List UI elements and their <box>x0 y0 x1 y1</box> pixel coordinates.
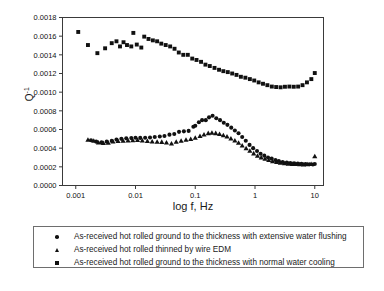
data-point-circle <box>251 146 255 150</box>
data-point-square <box>86 43 90 47</box>
y-axis-label-exponent: -1 <box>23 87 30 93</box>
data-point-square <box>274 85 278 89</box>
y-tick-label: 0.0000 <box>34 181 57 190</box>
data-point-square <box>131 31 135 35</box>
data-point-triangle <box>201 132 206 137</box>
data-point-circle <box>262 154 266 158</box>
data-point-square <box>292 85 296 89</box>
data-point-circle <box>153 135 157 139</box>
y-axis-label: Q-1 <box>23 83 35 105</box>
data-point-circle <box>225 123 229 127</box>
data-point-circle <box>158 134 162 138</box>
data-point-circle <box>182 129 186 133</box>
x-tick-label: 0.1 <box>190 191 200 200</box>
data-point-circle <box>193 124 197 128</box>
data-point-square <box>221 69 225 73</box>
data-point-triangle <box>150 139 155 144</box>
legend-item-label: As-received hot rolled thinned by wire E… <box>74 244 231 256</box>
data-point-circle <box>143 136 147 140</box>
data-point-square <box>213 66 217 70</box>
data-point-triangle <box>179 138 184 143</box>
data-point-triangle <box>312 154 317 159</box>
plot-frame <box>63 18 324 186</box>
x-tick-label: 10 <box>311 191 319 200</box>
legend-item-2: As-received hot rolled thinned by wire E… <box>34 244 363 256</box>
marker-glyph <box>55 261 59 265</box>
data-point-triangle <box>159 139 164 144</box>
data-point-square <box>110 41 114 45</box>
data-point-circle <box>148 135 152 139</box>
data-point-circle <box>236 131 240 135</box>
data-point-square <box>261 82 265 86</box>
y-tick-label: 0.0016 <box>34 32 57 41</box>
data-point-circle <box>207 115 211 119</box>
legend-item-label: As-received hot rolled ground to the thi… <box>74 257 335 269</box>
y-tick-label: 0.0008 <box>34 107 57 116</box>
data-point-circle <box>233 128 237 132</box>
data-point-square <box>230 72 234 76</box>
legend-item-label: As-received hot rolled ground to the thi… <box>74 231 347 243</box>
data-point-square <box>199 60 203 64</box>
y-tick-label: 0.0002 <box>34 163 57 172</box>
data-point-square <box>305 80 309 84</box>
data-point-square <box>168 44 172 48</box>
data-point-square <box>243 76 247 80</box>
x-tick-label: 0.001 <box>66 191 85 200</box>
data-point-square <box>103 46 107 50</box>
data-point-square <box>257 80 261 84</box>
axes-group <box>63 18 324 186</box>
data-point-square <box>313 71 317 75</box>
marker-glyph <box>55 248 59 252</box>
circle-marker-icon <box>51 235 63 239</box>
data-point-square <box>252 79 256 83</box>
x-tick-label: 0.01 <box>128 191 143 200</box>
data-series-group <box>76 30 317 167</box>
y-tick-label: 0.0018 <box>34 13 57 22</box>
data-point-triangle <box>213 131 218 136</box>
data-point-square <box>139 46 143 50</box>
data-point-square <box>226 70 230 74</box>
data-point-circle <box>167 133 171 137</box>
x-tick-label: 1 <box>253 191 257 200</box>
data-point-square <box>235 73 239 77</box>
data-point-square <box>203 63 207 67</box>
data-point-square <box>181 53 185 57</box>
data-point-square <box>217 68 221 72</box>
tick-labels-group: 0.00000.00020.00040.00060.00080.00100.00… <box>34 13 319 199</box>
figure-container: 0.00000.00020.00040.00060.00080.00100.00… <box>0 0 384 291</box>
data-point-square <box>195 58 199 62</box>
data-point-circle <box>247 143 251 147</box>
y-tick-label: 0.0014 <box>34 51 57 60</box>
data-point-circle <box>222 121 226 125</box>
data-point-square <box>147 37 151 41</box>
data-point-square <box>301 83 305 87</box>
data-point-circle <box>172 132 176 136</box>
data-point-triangle <box>221 133 226 138</box>
data-point-square <box>142 35 146 39</box>
data-point-triangle <box>183 137 188 142</box>
y-tick-label: 0.0004 <box>34 144 57 153</box>
data-point-circle <box>162 134 166 138</box>
data-point-square <box>151 38 155 42</box>
data-point-square <box>309 77 313 81</box>
data-point-square <box>208 64 212 68</box>
data-point-circle <box>214 116 218 120</box>
data-point-square <box>186 53 190 57</box>
y-tick-label: 0.0010 <box>34 88 57 97</box>
chart-legend: As-received hot rolled ground to the thi… <box>33 226 364 268</box>
series-3 <box>76 30 316 89</box>
data-point-triangle <box>188 136 193 141</box>
data-point-circle <box>211 114 215 118</box>
data-point-square <box>190 57 194 61</box>
data-point-square <box>239 75 243 79</box>
y-tick-label: 0.0006 <box>34 125 57 134</box>
data-point-triangle <box>164 140 169 145</box>
data-point-square <box>118 44 122 48</box>
marker-glyph <box>55 235 59 239</box>
data-point-square <box>283 85 287 89</box>
data-point-square <box>135 43 139 47</box>
data-point-triangle <box>217 132 222 137</box>
data-point-square <box>129 44 133 48</box>
data-point-triangle <box>193 135 198 140</box>
legend-item-1: As-received hot rolled ground to the thi… <box>34 231 363 243</box>
